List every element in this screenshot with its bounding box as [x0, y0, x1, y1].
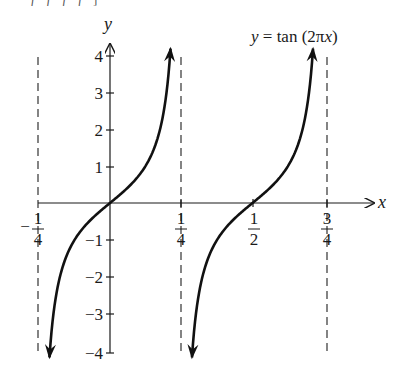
tangent-graph: 4 3 2 1 −1 −2 −3 −4 − 1 4 1 4 1 2 3 4 — [0, 0, 398, 369]
svg-text:1: 1 — [177, 209, 186, 228]
svg-text:−: − — [20, 217, 30, 236]
svg-text:4: 4 — [323, 230, 332, 249]
y-axis-label: y — [102, 14, 112, 34]
svg-text:1: 1 — [95, 158, 104, 177]
x-axis-label: x — [377, 192, 386, 212]
svg-text:4: 4 — [95, 47, 104, 66]
x-label-neg-quarter: − 1 4 — [20, 209, 44, 249]
svg-text:−3: −3 — [85, 305, 103, 324]
svg-text:3: 3 — [323, 209, 332, 228]
svg-text:−1: −1 — [85, 231, 103, 250]
svg-text:1: 1 — [34, 209, 43, 228]
svg-text:−4: −4 — [85, 344, 104, 363]
x-label-three-quarter: 3 4 — [321, 209, 333, 249]
svg-text:3: 3 — [95, 84, 104, 103]
svg-text:1: 1 — [250, 209, 259, 228]
y-tick-labels: 4 3 2 1 −1 −2 −3 −4 — [85, 47, 104, 363]
svg-text:2: 2 — [250, 230, 259, 249]
asymptotes — [38, 57, 327, 356]
chart-title: y = tan (2πx) — [249, 27, 338, 46]
svg-text:4: 4 — [34, 230, 43, 249]
x-label-half: 1 2 — [248, 209, 260, 249]
svg-text:−2: −2 — [85, 268, 103, 287]
svg-text:4: 4 — [177, 230, 186, 249]
x-tick-labels: − 1 4 1 4 1 2 3 4 — [20, 209, 333, 249]
svg-text:2: 2 — [95, 121, 104, 140]
x-label-quarter: 1 4 — [175, 209, 187, 249]
